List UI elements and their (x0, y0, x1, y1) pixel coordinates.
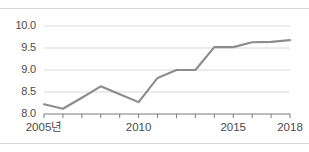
x-axis-label-2018: 2018 (260, 121, 309, 133)
x-axis-label-2005: 2005년 (14, 121, 74, 133)
y-axis-label-9.5: 9.5 (2, 42, 36, 53)
chart-figure: 8.08.59.09.510.0 2005년201020152018 (0, 0, 309, 152)
y-axis-label-8.0: 8.0 (2, 108, 36, 119)
gridline-group (44, 26, 290, 114)
x-axis-label-2015: 2015 (203, 121, 263, 133)
x-axis-label-2010: 2010 (109, 121, 169, 133)
y-axis-label-10.0: 10.0 (2, 20, 36, 31)
xtick-mark-group (44, 114, 290, 118)
y-axis-label-8.5: 8.5 (2, 86, 36, 97)
series-line-series-1 (44, 40, 290, 109)
y-axis-label-9.0: 9.0 (2, 64, 36, 75)
data-series-group (44, 40, 290, 109)
